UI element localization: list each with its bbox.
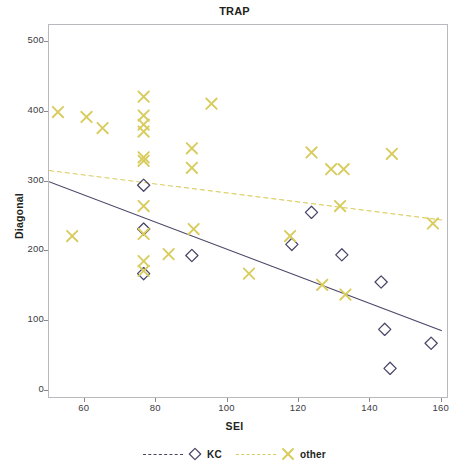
plot-area bbox=[48, 24, 448, 398]
x-tick-label-60: 60 bbox=[64, 402, 104, 413]
diamond-marker bbox=[336, 249, 348, 261]
diamond-marker bbox=[305, 206, 317, 218]
chart-legend: KCother bbox=[0, 443, 469, 465]
x-marker bbox=[187, 143, 197, 153]
diamond-marker bbox=[138, 179, 150, 191]
legend-label-kc: KC bbox=[207, 449, 222, 460]
x-marker bbox=[326, 164, 336, 174]
x-marker bbox=[244, 268, 254, 278]
legend-line-kc bbox=[143, 454, 183, 455]
x-tick-label-120: 120 bbox=[278, 402, 318, 413]
plot-canvas bbox=[49, 25, 449, 399]
fit-line-other bbox=[49, 171, 442, 220]
x-tick-label-140: 140 bbox=[349, 402, 389, 413]
fit-line-kc bbox=[49, 182, 442, 331]
x-marker bbox=[138, 256, 148, 266]
diamond-marker bbox=[286, 238, 298, 250]
diamond-marker bbox=[384, 362, 396, 374]
x-marker bbox=[138, 201, 148, 211]
x-marker bbox=[188, 224, 198, 234]
x-tick-label-160: 160 bbox=[421, 402, 461, 413]
x-marker bbox=[335, 201, 345, 211]
diamond-marker bbox=[425, 337, 437, 349]
scatter-chart: TRAP 0100200300400500 Diagonal 608010012… bbox=[0, 0, 469, 468]
series-other bbox=[53, 92, 438, 300]
x-marker bbox=[317, 280, 327, 290]
x-tick-label-80: 80 bbox=[135, 402, 175, 413]
series-kc bbox=[138, 179, 438, 374]
x-marker bbox=[81, 112, 91, 122]
x-marker bbox=[163, 249, 173, 259]
x-marker bbox=[338, 164, 348, 174]
diamond-marker bbox=[188, 447, 202, 461]
legend-label-other: other bbox=[300, 449, 326, 460]
x-marker bbox=[281, 447, 295, 461]
y-tick-label-500: 500 bbox=[10, 34, 44, 45]
x-marker bbox=[206, 99, 216, 109]
y-tick-label-400: 400 bbox=[10, 104, 44, 115]
x-tick-label-100: 100 bbox=[207, 402, 247, 413]
chart-title: TRAP bbox=[0, 5, 469, 17]
legend-entry-kc[interactable]: KC bbox=[143, 447, 222, 461]
x-marker bbox=[97, 123, 107, 133]
x-marker bbox=[306, 147, 316, 157]
x-axis-title: SEI bbox=[0, 420, 469, 432]
x-marker bbox=[387, 149, 397, 159]
x-marker bbox=[138, 92, 148, 102]
y-tick-label-100: 100 bbox=[10, 313, 44, 324]
x-marker bbox=[187, 163, 197, 173]
x-marker bbox=[138, 229, 148, 239]
x-marker bbox=[428, 218, 438, 228]
diamond-marker-shape bbox=[189, 448, 200, 459]
x-marker bbox=[138, 110, 148, 120]
y-tick-label-0: 0 bbox=[10, 383, 44, 394]
legend-entry-other[interactable]: other bbox=[236, 447, 326, 461]
x-marker bbox=[67, 231, 77, 241]
x-marker bbox=[138, 126, 148, 136]
legend-line-other bbox=[236, 454, 276, 455]
x-marker bbox=[340, 289, 350, 299]
y-axis-title: Diagonal bbox=[13, 181, 25, 251]
diamond-marker bbox=[379, 323, 391, 335]
diamond-marker bbox=[186, 249, 198, 261]
diamond-marker bbox=[375, 276, 387, 288]
x-marker bbox=[53, 107, 63, 117]
diamond-marker bbox=[138, 268, 150, 280]
